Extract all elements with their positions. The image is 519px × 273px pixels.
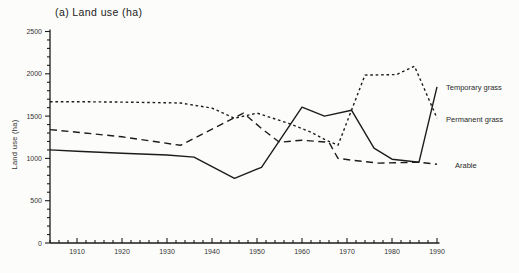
chart-title: (a) Land use (ha) <box>55 6 142 18</box>
x-tick-label: 1930 <box>159 248 175 255</box>
x-tick-label: 1910 <box>69 248 85 255</box>
series-line-arable <box>50 113 437 164</box>
y-tick-label: 500 <box>30 197 42 204</box>
x-tick-label: 1970 <box>339 248 355 255</box>
y-tick-label: 1000 <box>26 155 42 162</box>
x-tick-label: 1990 <box>429 248 445 255</box>
scanned-chart-page: (a) Land use (ha) Land use (ha) 05001000… <box>0 0 519 273</box>
x-tick-label: 1980 <box>384 248 400 255</box>
x-tick-label: 1950 <box>249 248 265 255</box>
x-tick-label: 1940 <box>204 248 220 255</box>
y-tick-label: 2500 <box>26 28 42 35</box>
series-label-temporary-grass: Temporary grass <box>446 83 502 92</box>
x-tick-label: 1920 <box>114 248 130 255</box>
x-tick-label: 1960 <box>294 248 310 255</box>
land-use-line-chart: 0500100015002000250019101920193019401950… <box>0 0 519 273</box>
y-axis-title: Land use (ha) <box>10 102 19 188</box>
y-tick-label: 0 <box>38 240 42 247</box>
series-line-permanent-grass <box>50 66 437 145</box>
y-tick-label: 2000 <box>26 70 42 77</box>
y-tick-label: 1500 <box>26 113 42 120</box>
series-label-arable: Arable <box>455 161 477 170</box>
series-label-permanent-grass: Permanent grass <box>446 115 503 124</box>
series-line-temporary-grass <box>50 87 437 178</box>
